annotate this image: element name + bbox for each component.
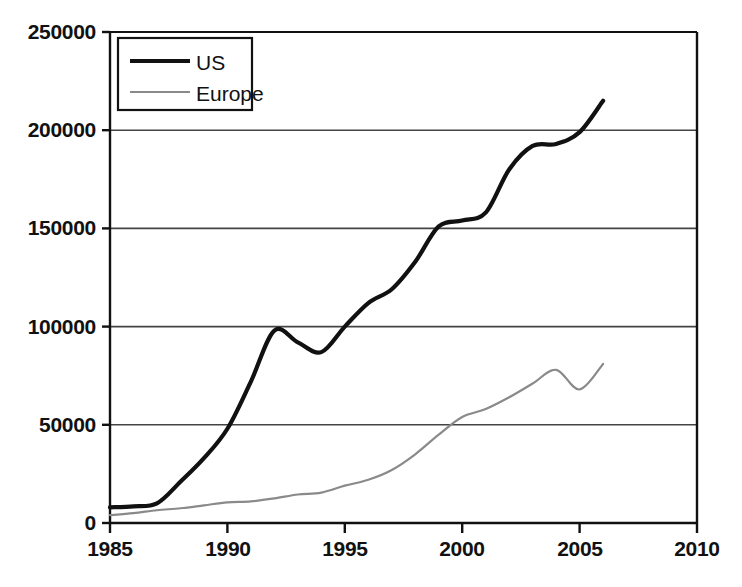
x-tick-label-1990: 1990 <box>198 537 258 561</box>
y-tick-label-150000: 150000 <box>28 216 96 240</box>
y-tick-label-200000: 200000 <box>28 118 96 142</box>
series-line-europe <box>110 364 603 515</box>
y-tick-label-100000: 100000 <box>28 315 96 339</box>
x-tick-label-2005: 2005 <box>550 537 610 561</box>
series-paths <box>110 101 603 515</box>
y-tick-label-250000: 250000 <box>28 20 96 44</box>
x-tick-label-1995: 1995 <box>315 537 375 561</box>
line-chart: 250000 200000 150000 100000 50000 0 1985… <box>0 0 742 587</box>
y-tick-label-0: 0 <box>85 511 96 535</box>
series-line-us <box>110 101 603 508</box>
y-tick-label-50000: 50000 <box>39 413 96 437</box>
legend-label-us: US <box>196 51 225 75</box>
x-tick-label-2000: 2000 <box>432 537 492 561</box>
x-tick-label-2010: 2010 <box>667 537 727 561</box>
x-tick-label-1985: 1985 <box>80 537 140 561</box>
legend-label-europe: Europe <box>196 82 264 106</box>
chart-canvas <box>0 0 742 587</box>
